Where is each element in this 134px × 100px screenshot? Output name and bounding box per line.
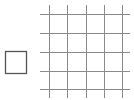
grid [40,5,130,98]
square-shape [6,52,27,74]
diagram-canvas [0,0,134,100]
